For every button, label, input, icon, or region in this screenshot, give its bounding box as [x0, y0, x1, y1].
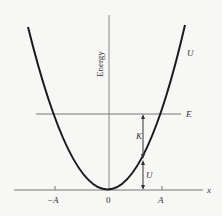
- tick-label-pos-a: A: [157, 195, 164, 205]
- x-axis-label: x: [206, 185, 211, 195]
- curve-label: U: [187, 48, 194, 58]
- arrowhead-icon: [141, 185, 145, 190]
- potential-label: U: [146, 170, 153, 180]
- y-axis-label: Energy: [95, 51, 105, 77]
- tick-label-origin: 0: [106, 195, 111, 205]
- energy-diagram: Energy x U E K U −A 0 A: [0, 0, 222, 216]
- arrowhead-icon: [141, 114, 145, 119]
- energy-line-label: E: [185, 109, 192, 119]
- tick-label-neg-a: −A: [47, 195, 59, 205]
- kinetic-label: K: [135, 131, 143, 141]
- arrowhead-icon: [141, 160, 145, 165]
- potential-energy-curve: [28, 25, 185, 190]
